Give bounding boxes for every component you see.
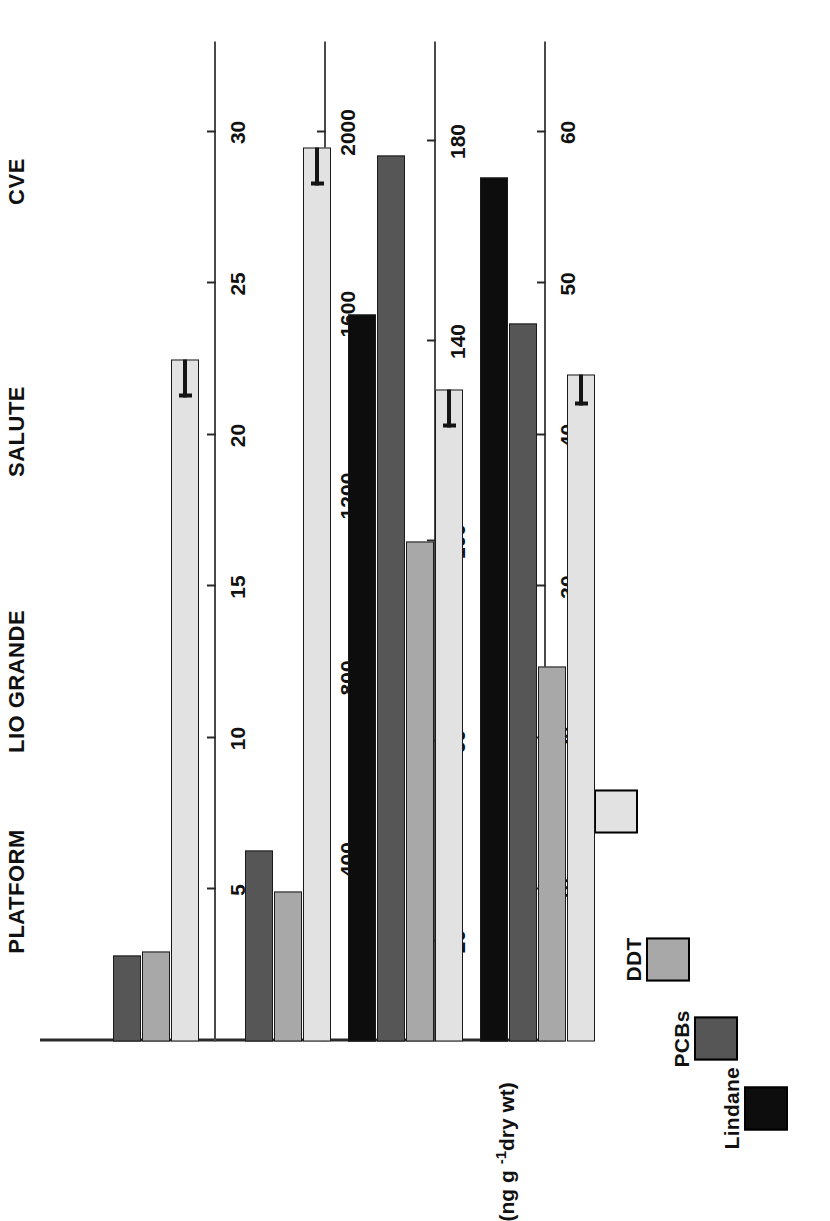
bar-lio-grande-ddt [274, 891, 302, 1041]
bar-platform-pcbs [113, 955, 141, 1041]
axis-tick [427, 139, 436, 141]
axis-tick [207, 584, 216, 586]
bar-salute-ddt [406, 541, 434, 1041]
legend-label: DDT [622, 937, 646, 981]
bar-platform-phago [171, 359, 199, 1041]
axis-tick [537, 433, 546, 435]
bar-lio-grande-phago [303, 147, 331, 1041]
axis-units-label: (ng g -1dry wt) [492, 1082, 519, 1221]
category-label-platform: PLATFORM [4, 829, 30, 954]
value-axes-stack: 5101520253040080012001600200020601001401… [44, 41, 556, 1041]
legend-item-pcbs[interactable]: PCBs [666, 1010, 738, 1067]
error-bar [315, 147, 319, 185]
axis-tick [207, 736, 216, 738]
error-bar [447, 390, 451, 428]
bar-cve-ddt [538, 666, 566, 1041]
axis-tick [537, 130, 546, 132]
axis-tick-label: 50 [556, 272, 580, 295]
legend-item-lindane[interactable]: Lindane [716, 1066, 788, 1149]
bar-salute-phago [435, 390, 463, 1042]
axis-tick [207, 888, 216, 890]
legend-swatch [744, 1086, 788, 1130]
axis-tick [537, 584, 546, 586]
legend-item-ddt[interactable]: DDT [618, 937, 690, 981]
bar-platform-ddt [142, 951, 170, 1041]
error-bar [183, 359, 187, 397]
error-bar-cap [575, 401, 588, 405]
legend-swatch [594, 789, 638, 833]
axis-tick [207, 281, 216, 283]
axis-tick [537, 281, 546, 283]
chart-legend: LindanePCBsDDTPhagocytosis (%) [566, 829, 816, 1149]
bar-lio-grande-pcbs [245, 850, 273, 1041]
axis-lindane: 51015202530 [106, 41, 216, 1041]
axis-tick-label: 60 [556, 120, 580, 143]
bar-cve-phago [567, 374, 595, 1041]
legend-label: Lindane [720, 1066, 744, 1149]
legend-swatch [694, 1016, 738, 1060]
bar-cve-pcbs [509, 323, 537, 1041]
category-axis-labels: PLATFORMLIO GRANDESALUTECVE [0, 41, 40, 1041]
error-bar-cap [179, 393, 192, 397]
axis-tick [317, 130, 326, 132]
category-label-lio-grande: LIO GRANDE [4, 609, 30, 752]
axis-tick [207, 433, 216, 435]
bar-cve-lindane [480, 177, 508, 1041]
category-label-salute: SALUTE [4, 386, 30, 477]
units-prefix: (ng g [495, 1164, 518, 1221]
error-bar-cap [443, 423, 456, 427]
axis-tick [207, 130, 216, 132]
error-bar-cap [311, 181, 324, 185]
units-suffix: dry wt) [495, 1082, 518, 1151]
category-label-cve: CVE [4, 158, 30, 205]
error-bar [579, 374, 583, 404]
units-exponent: -1 [492, 1151, 509, 1164]
legend-swatch [646, 937, 690, 981]
axis-tick [427, 339, 436, 341]
bar-salute-pcbs [377, 155, 405, 1041]
legend-label: PCBs [670, 1010, 694, 1067]
bar-salute-lindane [348, 314, 376, 1041]
